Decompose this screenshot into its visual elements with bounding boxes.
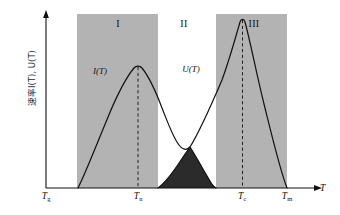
plot-canvas xyxy=(0,0,340,215)
region-label-1: I xyxy=(116,18,120,29)
x-tick-label-tg: Tg xyxy=(42,191,51,201)
region-label-2: II xyxy=(180,18,187,29)
y-axis-title: 速率I(T), U(T) xyxy=(24,0,38,178)
region-label-3: III xyxy=(248,18,259,29)
x-tick-label-tm: Tm xyxy=(282,191,292,201)
curve-label-growth-rate: U(T) xyxy=(182,64,200,74)
x-axis-title: T xyxy=(320,183,325,193)
x-tick-sub-tc: c xyxy=(243,195,246,202)
x-tick-label-tn: Tn xyxy=(134,191,143,201)
overlap-fill-area xyxy=(158,147,216,188)
x-tick-sub-tg: g xyxy=(47,195,50,202)
x-tick-label-tc: Tc xyxy=(238,191,246,201)
shaded-band-region-3 xyxy=(216,14,287,188)
figure-root: 速率I(T), U(T) T Tg Tn Tc Tm I II III I(T)… xyxy=(0,0,340,215)
x-tick-sub-tm: m xyxy=(287,195,292,202)
curve-label-nucleation-rate: I(T) xyxy=(93,66,107,76)
x-tick-sub-tn: n xyxy=(139,195,142,202)
y-axis-arrowhead xyxy=(43,10,49,18)
